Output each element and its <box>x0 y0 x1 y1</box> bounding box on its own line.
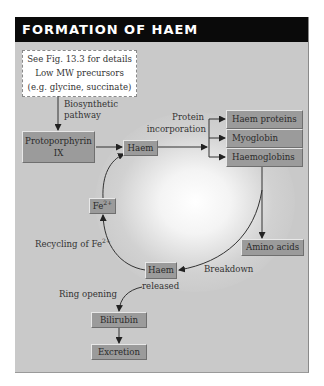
biosynthetic-line-1: Biosynthetic <box>64 99 118 110</box>
node-fe2plus: Fe2+ <box>89 198 116 214</box>
fe-symbol: Fe <box>93 201 104 211</box>
protoporphyrin-line-1: Protoporphyrin <box>23 135 94 147</box>
node-haemoglobins: Haemoglobins <box>226 148 303 167</box>
node-haem-released: Haem <box>145 262 177 279</box>
protein-incorporation-line-1: Protein <box>160 112 204 123</box>
node-protoporphyrin: Protoporphyrin IX <box>22 131 95 163</box>
protein-incorporation-label-2: incorporation <box>144 124 206 135</box>
node-myoglobin: Myoglobin <box>226 129 303 148</box>
node-haem: Haem <box>123 140 158 156</box>
biosynthetic-line-2: pathway <box>64 110 118 121</box>
node-haem-proteins: Haem proteins <box>226 110 303 129</box>
node-bilirubin: Bilirubin <box>91 312 147 328</box>
connector-lines <box>0 0 324 386</box>
protein-incorporation-label: Protein <box>160 112 204 123</box>
node-excretion: Excretion <box>91 344 147 360</box>
protoporphyrin-line-2: IX <box>23 147 94 159</box>
ring-opening-label: Ring opening <box>59 289 117 300</box>
node-amino-acids: Amino acids <box>241 239 304 256</box>
fe-charge: 2+ <box>103 199 112 206</box>
recycling-label: Recycling of Fe2+ <box>35 239 111 250</box>
recycling-text: Recycling of Fe <box>35 239 102 249</box>
breakdown-label: Breakdown <box>204 264 253 275</box>
recycling-charge: 2+ <box>102 237 111 244</box>
biosynthetic-label: Biosynthetic pathway <box>64 99 118 121</box>
protein-incorporation-line-2: incorporation <box>144 124 206 135</box>
released-label: released <box>142 281 179 292</box>
